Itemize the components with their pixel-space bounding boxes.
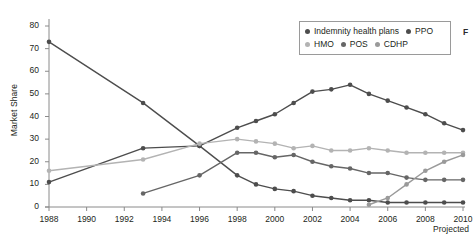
data-point [197,173,202,178]
data-point [461,178,466,183]
data-point [423,112,428,117]
x-tick-label: 2002 [295,214,329,224]
data-point [235,150,240,155]
legend-item-hmo[interactable]: HMO [305,40,334,49]
data-point [423,178,428,183]
data-point [442,178,447,183]
data-point [461,128,466,133]
data-point [291,146,296,151]
data-point [367,171,372,176]
data-point [442,200,447,205]
legend-item-indemnity-health-plans[interactable]: Indemnity health plans [305,27,399,36]
data-point [291,189,296,194]
x-tick-label: 2004 [333,214,367,224]
data-point [329,164,334,169]
data-point [329,148,334,153]
data-point [404,182,409,187]
edge-text-fragment: F [463,26,475,38]
data-point [404,175,409,180]
data-point [442,150,447,155]
data-point [367,198,372,203]
legend-marker-icon [375,42,380,47]
legend-marker-icon [305,29,310,34]
legend-row: HMOPOSCDHP [305,38,445,51]
x-tick-label: 2000 [258,214,292,224]
y-tick-label: 60 [19,65,39,75]
x-tick-label: 1992 [107,214,141,224]
y-axis-title: Market Share [9,70,19,150]
data-point [235,126,240,131]
projected-annotation: Projected [433,224,469,234]
data-point [291,101,296,106]
data-point [404,105,409,110]
data-point [404,200,409,205]
legend-marker-icon [305,42,310,47]
legend-marker-icon [406,29,411,34]
x-tick-label: 1990 [70,214,104,224]
legend-label: PPO [415,27,433,36]
series-line-ppo [49,85,463,182]
data-point [254,150,259,155]
data-point [423,200,428,205]
data-point [310,144,315,149]
data-point [385,98,390,103]
y-tick-label: 50 [19,88,39,98]
data-point [404,150,409,155]
data-point [310,89,315,94]
data-point [385,171,390,176]
data-point [273,112,278,117]
x-tick-label: 1988 [32,214,66,224]
legend-marker-icon [341,42,346,47]
data-point [385,148,390,153]
data-point [47,180,52,185]
data-point [254,182,259,187]
data-point [385,200,390,205]
market-share-line-chart: Market Share Indemnity health plansPPOHM… [0,0,475,250]
data-point [291,153,296,158]
data-point [47,40,52,45]
data-point [348,148,353,153]
legend-item-ppo[interactable]: PPO [406,27,433,36]
data-point [348,198,353,203]
y-tick-label: 0 [19,201,39,211]
data-point [254,119,259,124]
y-tick-label: 70 [19,43,39,53]
data-point [47,169,52,174]
data-point [423,169,428,174]
data-point [141,146,146,151]
data-point [442,159,447,164]
legend-label: POS [350,40,368,49]
x-tick-label: 2006 [371,214,405,224]
data-point [348,83,353,88]
series-line-pos [143,153,463,194]
data-point [442,121,447,126]
y-tick-label: 10 [19,178,39,188]
data-point [329,87,334,92]
legend-item-cdhp[interactable]: CDHP [375,40,408,49]
data-point [329,196,334,201]
x-tick-label: 2008 [408,214,442,224]
y-tick-label: 80 [19,20,39,30]
data-point [310,193,315,198]
x-tick-label: 2010 [446,214,475,224]
chart-legend: Indemnity health plansPPOHMOPOSCDHP [299,21,451,55]
data-point [461,153,466,158]
x-tick-label: 1994 [145,214,179,224]
data-point [367,202,372,207]
y-tick-label: 30 [19,133,39,143]
data-point [141,101,146,106]
y-tick-label: 40 [19,111,39,121]
data-point [235,173,240,178]
data-point [254,139,259,144]
x-tick-label: 1996 [183,214,217,224]
data-point [461,200,466,205]
data-point [235,137,240,142]
legend-label: HMO [314,40,334,49]
data-point [273,141,278,146]
data-point [310,159,315,164]
data-point [367,146,372,151]
legend-item-pos[interactable]: POS [341,40,368,49]
data-point [385,196,390,201]
data-point [367,92,372,97]
legend-label: CDHP [384,40,408,49]
